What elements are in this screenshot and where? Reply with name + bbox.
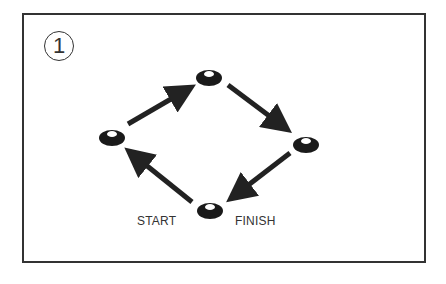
arrow-bottom-to-left-icon (136, 157, 192, 202)
arrow-right-to-bottom-icon (238, 153, 290, 193)
cone-top-icon (196, 70, 222, 86)
arrow-left-to-top-icon (128, 92, 183, 124)
cone-right-icon (293, 137, 319, 153)
finish-label: FINISH (235, 214, 276, 228)
cone-bottom-icon (197, 203, 223, 219)
cone-left-icon (99, 130, 125, 146)
arrow-top-to-right-icon (228, 85, 280, 124)
start-label: START (137, 214, 176, 228)
step-number-badge: 1 (44, 31, 74, 61)
